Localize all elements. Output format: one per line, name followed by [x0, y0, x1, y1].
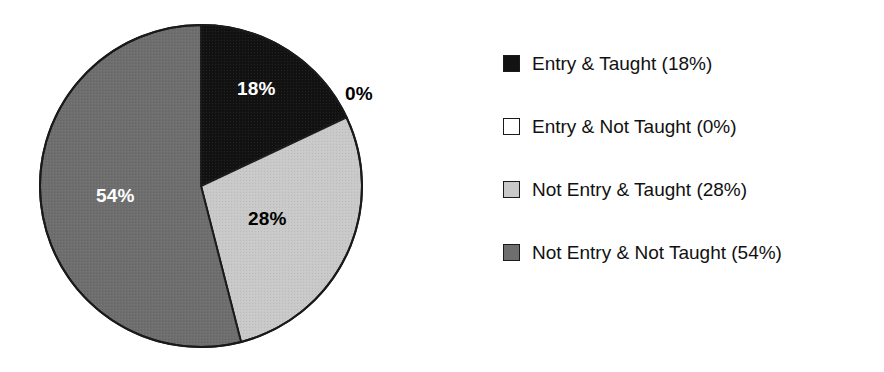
pie-slice-label-entry-taught: 18%	[237, 78, 276, 100]
pie-chart-figure: 18% 0% 28% 54% Entry & Taught (18%) Entr…	[0, 0, 884, 372]
legend-item-label: Not Entry & Not Taught (54%)	[532, 243, 782, 262]
legend-item-not-entry-taught: Not Entry & Taught (28%)	[503, 178, 878, 200]
legend-swatch-icon	[503, 55, 520, 72]
legend-swatch-icon	[503, 244, 520, 261]
pie-slice-label-not-entry-not-taught: 54%	[96, 185, 135, 207]
legend-swatch-icon	[503, 118, 520, 135]
chart-legend: Entry & Taught (18%) Entry & Not Taught …	[503, 52, 878, 263]
legend-item-label: Not Entry & Taught (28%)	[532, 180, 747, 199]
pie-slice-label-not-entry-taught: 28%	[248, 208, 287, 230]
legend-item-label: Entry & Not Taught (0%)	[532, 117, 737, 136]
legend-item-entry-not-taught: Entry & Not Taught (0%)	[503, 115, 878, 137]
pie-slices	[40, 25, 362, 347]
pie-chart-graphic: 18% 0% 28% 54%	[0, 0, 470, 372]
legend-item-entry-taught: Entry & Taught (18%)	[503, 52, 878, 74]
legend-swatch-icon	[503, 181, 520, 198]
legend-item-label: Entry & Taught (18%)	[532, 54, 712, 73]
pie-slice-label-entry-not-taught: 0%	[345, 83, 373, 105]
pie-svg	[0, 0, 470, 372]
legend-item-not-entry-not-taught: Not Entry & Not Taught (54%)	[503, 241, 878, 263]
